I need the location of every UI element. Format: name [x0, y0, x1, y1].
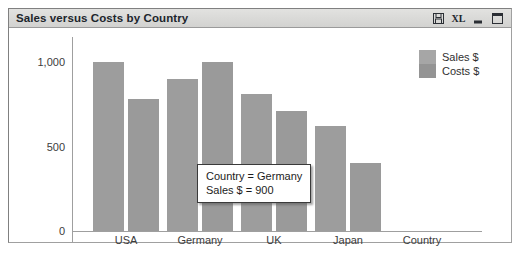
window-title: Sales versus Costs by Country	[9, 12, 188, 24]
maximize-icon[interactable]	[491, 12, 504, 25]
y-axis-line	[72, 37, 73, 242]
legend-swatch-sales	[419, 50, 436, 64]
minimize-icon[interactable]	[472, 12, 485, 25]
y-tick-label: 500	[9, 141, 65, 153]
y-tick-label: 1,000	[9, 56, 65, 68]
x-tick-label-germany: Germany	[177, 234, 222, 246]
tooltip-line-value: Sales $ = 900	[206, 183, 302, 197]
y-tick-label: 0	[9, 225, 65, 237]
bar-germany-costs[interactable]	[202, 62, 233, 231]
bar-germany-sales[interactable]	[167, 79, 198, 231]
x-axis-title: Country	[403, 234, 442, 246]
bar-japan-sales[interactable]	[315, 126, 346, 231]
legend-labels: Sales $ Costs $	[442, 50, 479, 78]
legend-swatch-costs	[419, 64, 436, 78]
chart-legend: Sales $ Costs $	[419, 50, 479, 78]
bar-usa-costs[interactable]	[128, 99, 159, 231]
bar-usa-sales[interactable]	[93, 62, 124, 231]
excel-export-icon[interactable]: XL	[451, 12, 466, 25]
save-icon[interactable]	[432, 12, 445, 25]
data-point-tooltip: Country = Germany Sales $ = 900	[197, 164, 311, 203]
tooltip-line-country: Country = Germany	[206, 169, 302, 183]
bar-uk-sales[interactable]	[241, 94, 272, 231]
plot-area: 05001,000 USAGermanyUKJapan Country Sale…	[9, 28, 511, 242]
chart-window: Sales versus Costs by Country XL	[8, 8, 512, 243]
x-tick-label-usa: USA	[115, 234, 138, 246]
x-tick-label-japan: Japan	[333, 234, 363, 246]
x-axis-line	[72, 231, 482, 232]
legend-label-costs: Costs $	[442, 64, 479, 78]
bar-japan-costs[interactable]	[350, 163, 381, 231]
x-tick-label-uk: UK	[266, 234, 281, 246]
title-bar: Sales versus Costs by Country XL	[9, 9, 511, 28]
title-bar-buttons: XL	[432, 12, 511, 25]
legend-swatches	[419, 50, 436, 78]
legend-label-sales: Sales $	[442, 50, 479, 64]
